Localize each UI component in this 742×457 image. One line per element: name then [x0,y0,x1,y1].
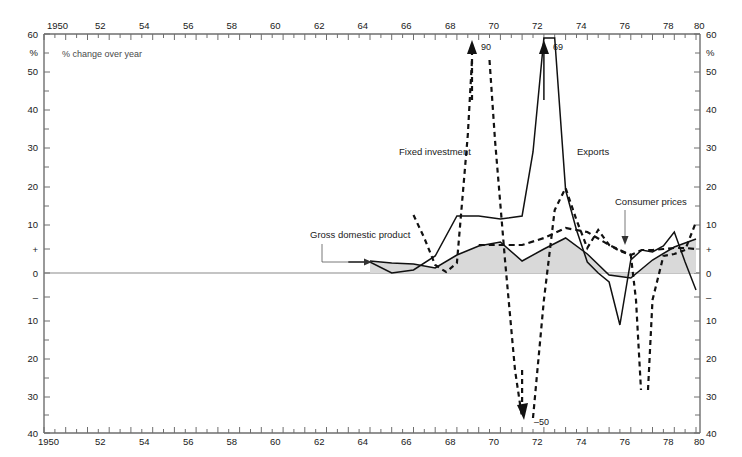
y-axis-labels-left: 60 % 50 40 30 20 10 + 0 – 10 20 30 40 [27,29,38,439]
y-tick-label-right-n10: 10 [706,315,717,326]
y-tick-label-right-20: 20 [706,181,717,192]
x-tick-label-bot-12: 74 [576,436,587,447]
y-minus-symbol-left: – [33,292,39,303]
x-tick-label-bot-4: 58 [227,436,238,447]
x-tick-label-top-15: 80 [694,20,705,31]
y-tick-label-right-n30: 30 [706,391,717,402]
x-tick-label-top-10: 70 [489,20,500,31]
y-tick-label-left-n10: 10 [27,315,38,326]
x-tick-label-top-5: 60 [270,20,281,31]
y-unit-symbol-right: % [706,47,715,58]
y-tick-label-right-30: 30 [706,142,717,153]
x-axis-ticks-bottom [44,427,696,433]
x-tick-label-top-3: 56 [183,20,194,31]
x-tick-label-bot-0: 1950 [38,436,59,447]
y-plus-symbol-left: + [32,244,38,255]
y-tick-label-left-40: 40 [27,104,38,115]
y-tick-label-right-60: 60 [706,29,717,40]
x-tick-label-bot-15: 80 [694,436,705,447]
x-tick-label-top-12: 74 [576,20,587,31]
trough-label-fixed-investment: –50 [534,417,549,427]
y-tick-label-left-30: 30 [27,142,38,153]
x-tick-label-bot-5: 60 [270,436,281,447]
y-plus-symbol-right: + [706,244,712,255]
y-tick-label-left-0: 0 [33,268,38,279]
y-tick-label-right-50: 50 [706,66,717,77]
x-tick-label-top-9: 68 [445,20,456,31]
gdp-label: Gross domestic product [310,229,411,240]
y-axis-labels-right: 60 % 50 40 30 20 10 + 0 – 10 20 30 40 [706,29,717,439]
y-tick-label-left-20: 20 [27,181,38,192]
exports-line [348,38,696,325]
x-tick-label-top-14: 78 [663,20,674,31]
y-tick-label-right-n40: 40 [706,428,717,439]
x-tick-label-top-1: 52 [95,20,106,31]
chart-container: 1950 52 54 56 58 60 62 64 66 68 70 72 74… [0,0,742,457]
x-tick-label-top-8: 66 [401,20,412,31]
x-axis-labels-top: 1950 52 54 56 58 60 62 64 66 68 70 72 74… [47,20,705,31]
y-tick-label-right-10: 10 [706,219,717,230]
peak-label-fixed-investment: 90 [481,42,491,52]
x-tick-label-top-0: 1950 [47,20,68,31]
x-tick-label-bot-7: 64 [358,436,369,447]
x-tick-label-top-4: 58 [227,20,238,31]
y-tick-label-left-10: 10 [27,219,38,230]
y-tick-label-left-n20: 20 [27,353,38,364]
y-tick-label-right-n20: 20 [706,353,717,364]
y-minus-symbol-right: – [706,292,712,303]
x-tick-label-top-7: 64 [358,20,369,31]
x-tick-label-bot-9: 68 [445,436,456,447]
x-tick-label-bot-6: 62 [314,436,325,447]
x-tick-label-bot-10: 70 [489,436,500,447]
x-tick-label-bot-3: 56 [183,436,194,447]
x-tick-label-top-6: 62 [314,20,325,31]
y-tick-label-left-60: 60 [27,29,38,40]
peak-label-exports: 69 [553,42,563,52]
x-tick-label-bot-8: 66 [401,436,412,447]
x-tick-label-bot-2: 54 [139,436,150,447]
gdp-area [370,238,696,278]
x-tick-label-top-13: 76 [620,20,631,31]
x-tick-label-bot-14: 78 [663,436,674,447]
consumer-prices-label: Consumer prices [615,196,687,207]
x-tick-label-top-2: 54 [139,20,150,31]
x-tick-label-bot-11: 72 [532,436,543,447]
offscale-arrows [467,40,549,420]
y-tick-label-right-0: 0 [706,268,711,279]
y-tick-label-left-50: 50 [27,66,38,77]
x-tick-label-bot-13: 76 [620,436,631,447]
x-tick-label-top-11: 72 [532,20,543,31]
chart-caption: % change over year [62,49,142,59]
y-tick-label-right-40: 40 [706,104,717,115]
y-tick-label-left-n40: 40 [27,428,38,439]
y-tick-label-left-n30: 30 [27,391,38,402]
fixed-investment-label: Fixed investment [399,146,471,157]
y-axis-ticks-left [44,34,50,433]
x-axis-labels-bottom: 1950 52 54 56 58 60 62 64 66 68 70 72 74… [38,436,705,447]
consumer-prices-leader-arrow [622,236,629,245]
fixed-investment-line [414,60,697,418]
x-axis-ticks-top [44,34,696,40]
y-unit-symbol-left: % [30,47,39,58]
exports-label: Exports [577,146,609,157]
x-tick-label-bot-1: 52 [95,436,106,447]
y-axis-ticks-right [694,34,700,433]
